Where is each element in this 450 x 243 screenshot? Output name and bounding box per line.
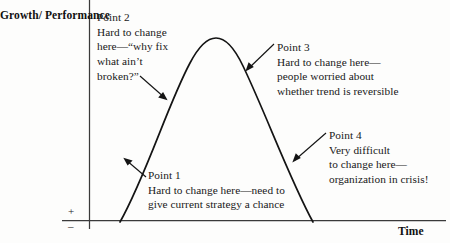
annotation-point-3: Point 3 Hard to change here— people worr… <box>277 40 399 99</box>
leader-arrow-point-4 <box>292 133 326 162</box>
lifecycle-curve-figure: Growth/ Performance Time + – Point 2 Har… <box>0 0 450 243</box>
leader-arrow-point-3 <box>245 44 274 72</box>
annotation-point-1: Point 1 Hard to change here—need to give… <box>148 168 285 212</box>
leader-arrow-point-1 <box>123 158 146 177</box>
annotation-point-2: Point 2 Hard to change here—“why fix wha… <box>97 10 168 84</box>
positive-axis-marker: + <box>68 206 74 217</box>
annotation-point-4: Point 4 Very difficult to change here— o… <box>329 128 428 187</box>
negative-axis-marker: – <box>68 221 74 232</box>
x-axis-label: Time <box>398 224 424 238</box>
y-axis-label: Growth/ Performance <box>0 8 84 22</box>
